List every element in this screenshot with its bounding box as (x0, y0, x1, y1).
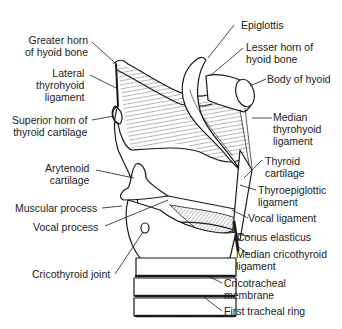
label-line: Superior horn of (12, 114, 87, 126)
label-line: Conus elasticus (237, 231, 311, 243)
label-line: cartilage (265, 167, 305, 179)
label-line: ligament (258, 196, 326, 208)
label-arytenoid: Arytenoid cartilage (45, 162, 89, 186)
label-cricothyroid-joint: Cricothyroid joint (32, 268, 110, 280)
label-line: Cricotracheal (224, 277, 286, 289)
label-line: Epiglottis (241, 19, 284, 31)
label-muscular-process: Muscular process (15, 202, 97, 214)
larynx-diagram: Greater horn of hyoid bone Lateral thyro… (0, 0, 342, 329)
label-line: ligament (273, 135, 321, 147)
label-line: Body of hyoid (267, 73, 331, 85)
label-median-thyrohyoid: Median thyrohyoid ligament (273, 111, 321, 147)
label-cricotracheal: Cricotracheal membrane (224, 277, 286, 301)
label-line: Arytenoid (45, 162, 89, 174)
label-line: Thyroid (265, 155, 305, 167)
label-line: ligament (236, 260, 327, 272)
label-lesser-horn: Lesser horn of hyoid bone (246, 41, 313, 65)
label-greater-horn: Greater horn of hyoid bone (25, 34, 88, 58)
label-line: Median (273, 111, 321, 123)
label-line: membrane (224, 289, 286, 301)
label-line: Lateral (36, 67, 84, 79)
label-first-tracheal-ring: First tracheal ring (224, 305, 305, 317)
label-superior-horn: Superior horn of thyroid cartilage (12, 114, 87, 138)
label-epiglottis: Epiglottis (241, 19, 284, 31)
label-line: Vocal process (33, 221, 98, 233)
label-conus-elasticus: Conus elasticus (237, 231, 311, 243)
label-line: Thyroepiglottic (258, 184, 326, 196)
label-line: thyrohyoid (273, 123, 321, 135)
label-vocal-process: Vocal process (33, 221, 98, 233)
label-vocal-ligament: Vocal ligament (248, 212, 316, 224)
label-line: of hyoid bone (25, 46, 88, 58)
label-line: Lesser horn of (246, 41, 313, 53)
label-line: hyoid bone (246, 53, 313, 65)
label-line: thyrohyoid (36, 79, 84, 91)
label-line: ligament (36, 91, 84, 103)
label-body-of-hyoid: Body of hyoid (267, 73, 331, 85)
label-thyroid-cartilage: Thyroid cartilage (265, 155, 305, 179)
label-line: First tracheal ring (224, 305, 305, 317)
label-line: Muscular process (15, 202, 97, 214)
label-line: cartilage (45, 174, 89, 186)
label-line: Greater horn (25, 34, 88, 46)
label-lateral-thyrohyoid: Lateral thyrohyoid ligament (36, 67, 84, 103)
label-line: Cricothyroid joint (32, 268, 110, 280)
label-median-cricothyroid: Median cricothyroid ligament (236, 248, 327, 272)
label-line: Vocal ligament (248, 212, 316, 224)
label-line: thyroid cartilage (12, 126, 87, 138)
label-thyroepiglottic: Thyroepiglottic ligament (258, 184, 326, 208)
label-line: Median cricothyroid (236, 248, 327, 260)
